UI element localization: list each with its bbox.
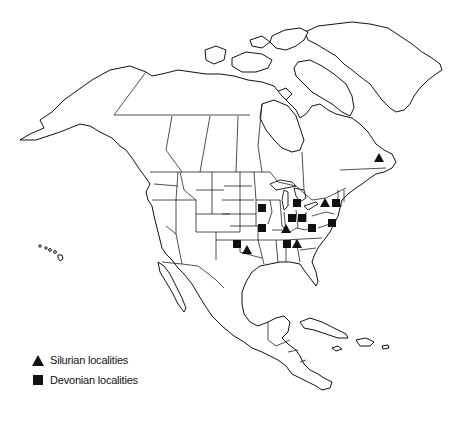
legend-item-devonian: Devonian localities (32, 370, 138, 390)
legend-item-silurian: Silurian localities (32, 350, 138, 370)
banks-island (205, 46, 226, 64)
victoria-island (232, 52, 272, 72)
devonian-locality-marker (308, 224, 316, 232)
devonian-locality-marker (332, 199, 340, 207)
devonian-locality-marker (233, 240, 241, 248)
jamaica (332, 346, 342, 351)
cuba (300, 318, 348, 338)
devonian-locality-marker (288, 214, 296, 222)
legend-label: Silurian localities (50, 354, 128, 366)
devonian-locality-marker (258, 204, 266, 212)
hispaniola (356, 338, 374, 346)
devonian-locality-marker (328, 219, 336, 227)
triangle-icon (32, 355, 44, 366)
devonian-locality-marker (258, 224, 266, 232)
devonian-locality-marker (293, 199, 301, 207)
hawaii (39, 245, 63, 261)
arctic-island-small (250, 36, 270, 48)
legend: Silurian localities Devonian localities (32, 350, 138, 390)
ellesmere-island (270, 28, 308, 50)
devonian-locality-marker (283, 240, 291, 248)
square-icon (33, 375, 43, 385)
puerto-rico (382, 345, 389, 349)
devonian-locality-marker (298, 214, 306, 222)
legend-label: Devonian localities (50, 374, 138, 386)
